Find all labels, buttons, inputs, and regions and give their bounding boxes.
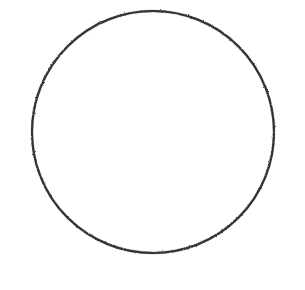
background-rect	[0, 0, 305, 290]
image-canvas: Hand-drawn circle outline on a white bac…	[0, 0, 305, 290]
drawing-surface	[0, 0, 305, 290]
